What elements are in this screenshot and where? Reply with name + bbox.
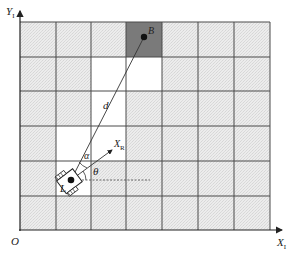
origin-label: O — [11, 236, 19, 247]
distance-label: d — [103, 100, 109, 111]
robot-axis-label: XR — [114, 139, 125, 152]
x-axis-label: XI — [277, 237, 286, 251]
y-axis-label: YI — [6, 6, 14, 20]
occupancy-grid — [20, 22, 270, 230]
alpha-label: α — [84, 151, 89, 161]
free-cell — [91, 57, 126, 91]
y-axis-subscript: I — [12, 12, 14, 20]
x-axis-subscript: I — [284, 243, 286, 251]
x-axis-letter: X — [277, 236, 284, 248]
goal-point — [141, 34, 147, 40]
robot-center — [68, 177, 75, 184]
navigation-diagram — [0, 0, 292, 257]
goal-label: B — [148, 26, 154, 36]
theta-label: θ — [93, 166, 98, 177]
robot-label: L — [60, 183, 66, 194]
robot-axis-subscript: R — [120, 144, 125, 152]
